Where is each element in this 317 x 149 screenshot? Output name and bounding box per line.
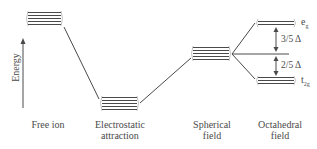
eg-label-sub: g: [305, 23, 308, 29]
connector-line: [232, 54, 255, 79]
upper-splitting-label: 3/5 Δ: [281, 34, 301, 44]
stage-label-line2: field: [182, 130, 242, 141]
electrostatic-levels: [101, 96, 139, 111]
lower-splitting-arrow: [274, 56, 279, 76]
energy-axis-label: Energy: [10, 51, 21, 85]
connector-line: [64, 27, 99, 99]
t2g-label-sub: 2g: [304, 81, 310, 87]
upper-splitting-arrow: [274, 27, 279, 52]
connector-line: [140, 58, 191, 103]
stage-label-line1: Octahedral: [248, 119, 312, 130]
stage-label-line1: Spherical: [182, 119, 242, 130]
lower-splitting-label: 2/5 Δ: [281, 60, 301, 70]
stage-label-free-ion: Free ion: [18, 119, 78, 130]
stage-label-line1: Free ion: [18, 119, 78, 130]
stage-label-line1: Electrostatic: [88, 119, 152, 130]
eg-label: eg: [301, 16, 308, 29]
t2g-levels: [257, 76, 296, 85]
connector-line: [232, 23, 255, 54]
stage-label-octahedral: Octahedral field: [248, 119, 312, 141]
spherical-levels: [192, 46, 231, 61]
free-ion-levels: [27, 11, 63, 26]
eg-levels: [257, 19, 296, 27]
t2g-label: t2g: [301, 74, 310, 87]
stage-label-spherical: Spherical field: [182, 119, 242, 141]
stage-label-line2: field: [248, 130, 312, 141]
stage-label-line2: attraction: [88, 130, 152, 141]
stage-label-electrostatic: Electrostatic attraction: [88, 119, 152, 141]
energy-axis-arrow: [21, 38, 26, 108]
